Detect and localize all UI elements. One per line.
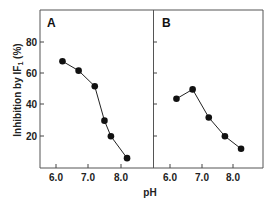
y-tick-60: 60 (26, 68, 38, 79)
y-tick-40: 40 (26, 99, 38, 110)
x-tick-a-7: 7.0 (81, 172, 95, 183)
panel-b-label: B (162, 16, 171, 30)
series-line (62, 61, 127, 158)
x-tick-b-6: 6.0 (163, 172, 177, 183)
data-point-marker (238, 145, 245, 152)
x-axis-label: pH (143, 187, 156, 198)
y-tick-80: 80 (26, 37, 38, 48)
figure: 80 60 40 20 6.0 7.0 8.0 6.0 7.0 8.0 A B … (0, 0, 276, 201)
data-point-marker (91, 83, 98, 90)
data-point-marker (222, 133, 229, 140)
y-axis-label: Inhibition by IF1 (%) (12, 43, 24, 136)
data-point-marker (205, 114, 212, 121)
data-point-marker (124, 155, 131, 162)
x-tick-a-8: 8.0 (114, 172, 128, 183)
data-point-marker (173, 95, 180, 102)
series-a (59, 58, 130, 161)
x-tick-b-7: 7.0 (195, 172, 209, 183)
x-tick-a-6: 6.0 (49, 172, 63, 183)
data-point-marker (101, 117, 108, 124)
series-b (173, 86, 244, 152)
data-point-marker (59, 58, 66, 65)
panel-b-frame (153, 10, 263, 168)
data-point-marker (75, 67, 82, 74)
data-point-marker (189, 86, 196, 93)
y-tick-20: 20 (26, 131, 38, 142)
x-tick-b-8: 8.0 (226, 172, 240, 183)
x-axis-ticks-b (170, 164, 233, 168)
panel-a-label: A (47, 16, 56, 30)
data-point-marker (108, 133, 115, 140)
y-axis-ticks-a (40, 42, 44, 136)
x-axis-ticks-a (56, 164, 121, 168)
